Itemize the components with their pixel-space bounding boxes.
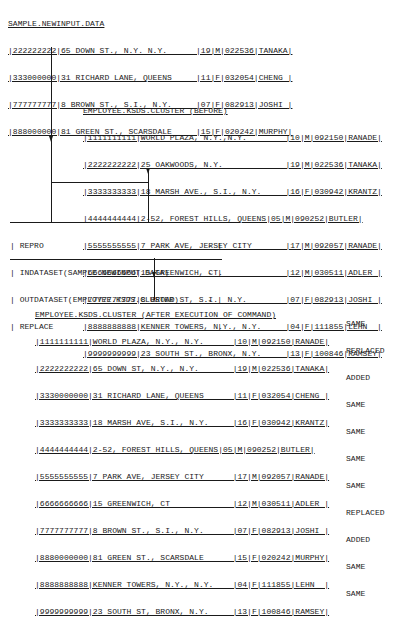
command-text: | INDATASET(SAMPLE.NEWINPUT.DATA) [10,268,169,277]
status-label: ADDED [346,535,385,544]
table-row: |2222222222|65 DOWN ST, N.Y., N.Y. |19|M… [35,364,329,373]
status-label: REPLACED [346,508,385,517]
before-cluster-title: EMPLOYEE.KSDS.CLUSTER (BEFORE) [83,106,382,115]
after-cluster-title: EMPLOYEE.KSDS.CLUSTER (AFTER EXECUTION O… [35,310,329,319]
command-line: | INDATASET(SAMPLE.NEWINPUT.DATA) - | [10,268,222,277]
status-label: SAME [346,562,385,571]
status-label: SAME [346,319,385,328]
status-label: SAME [346,400,385,409]
status-label: SAME [346,427,385,436]
table-row: |4444444444|2-52, FOREST HILLS, QUEENS|0… [35,445,329,454]
status-label: SAME [346,454,385,463]
table-row: |7777777777|8 BROWN ST., S.I., N.Y. |07|… [35,526,329,535]
status-label: ADDED [346,373,385,382]
table-row: |3333333333|18 MARSH AVE., S.I., N.Y. |1… [83,187,382,196]
table-row: |3333333333|18 MARSH AVE, S.I., N.Y. |16… [35,418,329,427]
connector-line [51,47,52,182]
continuation-mark: - | [208,241,222,250]
status-column: SAME REPLACED ADDED SAME SAME SAME SAME … [346,301,385,607]
connector-line [148,182,149,222]
table-row: |8880000000|81 GREEN ST., SCARSDALE |15|… [35,553,329,562]
arrow-down-icon [152,272,156,278]
status-label: SAME [346,481,385,490]
table-row: |6666666666|15 GREENWICH, CT |12|M|03051… [35,499,329,508]
arrow-down-icon [49,136,53,142]
table-row: |8888888888|KENNER TOWERS, N.Y., N.Y. |0… [35,580,329,589]
status-label: SAME [346,589,385,598]
table-row: |1111111111|WORLD PLAZA, N.Y., N.Y. |10|… [35,337,329,346]
after-cluster-dataset: EMPLOYEE.KSDS.CLUSTER (AFTER EXECUTION O… [35,292,329,620]
table-row: |3330000000|31 RICHARD LANE, QUEENS |11|… [35,391,329,400]
command-text: | REPRO [10,241,44,250]
command-line: | REPRO - | [10,241,222,250]
repro-command-box: | REPRO - | | INDATASET(SAMPLE.NEWINPUT.… [10,222,222,260]
input-dataset-title: SAMPLE.NEWINPUT.DATA [8,19,292,28]
arrow-down-icon [146,168,150,174]
connector-line [51,182,52,222]
table-row: |2222222222|25 OAKWOODS, N.Y. |19|M|0225… [83,160,382,169]
table-row: |5555555555|7 PARK AVE, JERSEY CITY |17|… [35,472,329,481]
table-row: |9999999999|23 SOUTH ST, BRONX, N.Y. |13… [35,607,329,616]
continuation-mark: - | [208,268,222,277]
status-label: REPLACED [346,346,385,355]
connector-line [51,182,149,183]
table-row: |1111111111|WORLD PLAZA, N.Y.,N.Y. |10|M… [83,133,382,142]
